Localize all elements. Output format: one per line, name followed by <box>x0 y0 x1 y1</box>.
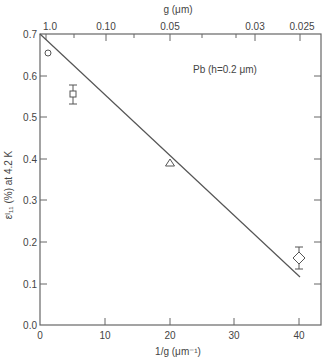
x-ticks-top <box>46 34 300 41</box>
plot-frame <box>40 34 321 325</box>
svg-text:40: 40 <box>293 330 305 341</box>
y-axis-title: εᴵ₁₁ (%) at 4.2 K <box>3 150 14 219</box>
fit-line <box>40 34 300 277</box>
svg-text:0.03: 0.03 <box>245 21 265 32</box>
svg-text:0.7: 0.7 <box>23 29 37 40</box>
svg-text:0.0: 0.0 <box>23 320 37 331</box>
top-tick-labels: 1.0 0.10 0.05 0.03 0.025 <box>43 21 315 32</box>
x-axis-title: 1/g (μm⁻¹) <box>155 346 201 357</box>
y-ticks-right <box>314 76 321 284</box>
triangle-marker <box>166 159 175 166</box>
chart: 0.7 0.6 0.5 0.4 0.3 0.2 0.1 0.0 0 10 20 … <box>0 0 327 360</box>
diamond-marker <box>293 247 305 269</box>
y-tick-labels: 0.7 0.6 0.5 0.4 0.3 0.2 0.1 0.0 <box>23 29 37 331</box>
svg-text:0.6: 0.6 <box>23 71 37 82</box>
svg-text:0.10: 0.10 <box>96 21 116 32</box>
svg-text:0.025: 0.025 <box>289 21 314 32</box>
svg-text:0.05: 0.05 <box>160 21 180 32</box>
svg-text:1.0: 1.0 <box>43 21 57 32</box>
svg-text:30: 30 <box>228 330 240 341</box>
square-marker <box>69 85 77 104</box>
annotation-label: Pb (h=0.2 μm) <box>193 64 257 75</box>
svg-text:0.2: 0.2 <box>23 237 37 248</box>
x-tick-labels: 0 10 20 30 40 <box>37 330 305 341</box>
svg-text:10: 10 <box>99 330 111 341</box>
top-axis-title: g (μm) <box>163 4 192 15</box>
svg-text:0.3: 0.3 <box>23 195 37 206</box>
svg-text:0: 0 <box>37 330 43 341</box>
svg-text:0.1: 0.1 <box>23 279 37 290</box>
svg-text:0.4: 0.4 <box>23 154 37 165</box>
svg-text:0.5: 0.5 <box>23 112 37 123</box>
svg-text:20: 20 <box>164 330 176 341</box>
x-ticks-bottom <box>105 318 299 325</box>
circle-marker <box>45 50 51 56</box>
y-ticks-left <box>40 76 47 284</box>
